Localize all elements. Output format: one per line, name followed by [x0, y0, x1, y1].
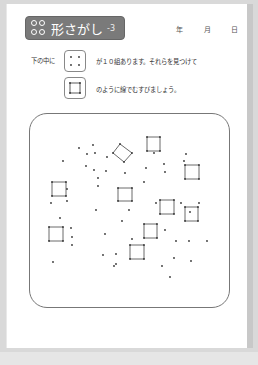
puzzle-dot[interactable]	[164, 171, 166, 173]
puzzle-dot[interactable]	[52, 261, 54, 263]
puzzle-dot[interactable]	[66, 188, 68, 190]
connected-square	[113, 144, 132, 162]
puzzle-dot[interactable]	[190, 260, 192, 262]
puzzle-dot[interactable]	[94, 152, 96, 154]
puzzle-dot[interactable]	[131, 238, 133, 240]
puzzle-dot[interactable]	[198, 202, 200, 204]
puzzle-dot[interactable]	[95, 209, 97, 211]
puzzle-dot[interactable]	[78, 147, 80, 149]
connected-square	[147, 137, 160, 151]
puzzle-dot[interactable]	[121, 220, 123, 222]
puzzle-dot[interactable]	[183, 160, 185, 162]
connected-square	[185, 165, 199, 179]
puzzle-dot[interactable]	[153, 152, 155, 154]
puzzle-dot[interactable]	[71, 244, 73, 246]
connected-square	[52, 182, 66, 196]
puzzle-dot[interactable]	[113, 265, 115, 267]
puzzle-dot[interactable]	[70, 227, 72, 229]
puzzle-dot[interactable]	[115, 253, 117, 255]
connected-square	[160, 200, 174, 214]
puzzle-dot[interactable]	[161, 265, 163, 267]
puzzle-dot[interactable]	[180, 202, 182, 204]
connected-square	[144, 224, 157, 238]
puzzle-dot[interactable]	[97, 185, 99, 187]
puzzle-dot[interactable]	[59, 217, 61, 219]
puzzle-dot[interactable]	[124, 172, 126, 174]
puzzle-dot[interactable]	[164, 229, 166, 231]
puzzle-dot[interactable]	[93, 169, 95, 171]
puzzle-dot[interactable]	[128, 209, 130, 211]
puzzle-dot[interactable]	[115, 263, 117, 265]
connected-square	[118, 188, 132, 201]
puzzle-dot[interactable]	[102, 254, 104, 256]
puzzle-dot[interactable]	[86, 153, 88, 155]
puzzle-dot[interactable]	[66, 200, 68, 202]
puzzle-dot[interactable]	[92, 144, 94, 146]
puzzle-dot[interactable]	[97, 177, 99, 179]
puzzle-dot[interactable]	[189, 211, 191, 213]
puzzle-dot[interactable]	[175, 240, 177, 242]
puzzle-dot[interactable]	[173, 257, 175, 259]
dot-puzzle-canvas[interactable]	[0, 0, 258, 365]
puzzle-dot[interactable]	[155, 202, 157, 204]
connected-square	[49, 227, 63, 241]
puzzle-dot[interactable]	[169, 276, 171, 278]
puzzle-dot[interactable]	[163, 163, 165, 165]
puzzle-dot[interactable]	[106, 156, 108, 158]
puzzle-dot[interactable]	[143, 181, 145, 183]
puzzle-dot[interactable]	[50, 202, 52, 204]
puzzle-dot[interactable]	[188, 240, 190, 242]
puzzle-dot[interactable]	[145, 167, 147, 169]
puzzle-dot[interactable]	[206, 240, 208, 242]
connected-square	[185, 207, 198, 221]
puzzle-dot[interactable]	[104, 233, 106, 235]
puzzle-dot[interactable]	[62, 160, 64, 162]
puzzle-dot[interactable]	[71, 236, 73, 238]
puzzle-dot[interactable]	[105, 170, 107, 172]
connected-square	[130, 245, 144, 259]
puzzle-dot[interactable]	[85, 165, 87, 167]
puzzle-dot[interactable]	[185, 153, 187, 155]
